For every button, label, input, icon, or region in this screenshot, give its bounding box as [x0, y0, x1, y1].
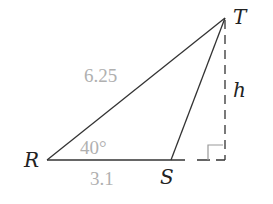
side-rs-length: 3.1 [90, 168, 114, 189]
right-angle-mark [208, 145, 223, 160]
vertex-label-r: R [23, 148, 39, 172]
height-label: h [233, 78, 246, 102]
vertex-label-t: T [233, 5, 248, 29]
triangle-diagram: R S T 6.25 3.1 40° h [0, 0, 273, 204]
side-rt-length: 6.25 [84, 65, 117, 86]
angle-r-measure: 40° [80, 137, 107, 158]
vertex-label-s: S [160, 165, 174, 189]
